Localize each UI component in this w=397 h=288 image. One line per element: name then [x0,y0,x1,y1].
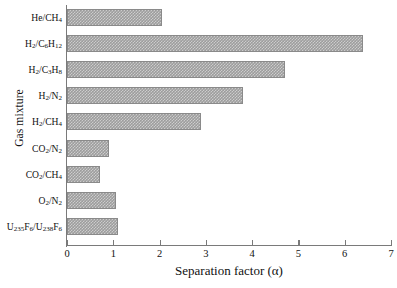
bar-row [67,9,162,26]
separation-factor-bar-chart: Gas mixture Separation factor (α) He/CH4… [0,0,397,288]
bar-He/CH4 [67,9,162,26]
y-tick-label: CO2/N2 [32,143,62,157]
x-tick-label: 7 [379,248,397,259]
x-tick-mark [391,240,392,246]
bar-row [67,113,201,130]
bar-row [67,140,109,157]
y-tick-label: O2/N2 [38,195,62,209]
x-tick-label: 0 [55,248,79,259]
y-tick-label: H2/N2 [38,90,62,104]
x-axis-title: Separation factor (α) [67,263,391,279]
y-tick-label: CO2/CH4 [26,169,62,183]
x-tick-label: 2 [148,248,172,259]
x-tick-mark [160,240,161,246]
bar-H2/N2 [67,87,243,104]
y-tick-label: H2/C3H8 [29,64,62,78]
x-tick-label: 6 [333,248,357,259]
bar-U235F6/U238F6 [67,218,118,235]
bar-CO2/CH4 [67,166,100,183]
bar-row [67,166,100,183]
bar-H2/C6H12 [67,35,363,52]
x-tick-label: 4 [240,248,264,259]
bar-row [67,218,118,235]
bar-H2/CH4 [67,113,201,130]
x-tick-mark [113,240,114,246]
x-axis-line [66,245,391,246]
y-tick-label: H2/C6H12 [25,38,62,52]
bar-row [67,192,116,209]
x-tick-mark [298,240,299,246]
bar-O2/N2 [67,192,116,209]
bar-CO2/N2 [67,140,109,157]
x-tick-mark [67,240,68,246]
y-tick-label: U235F6/U238F6 [7,221,62,235]
y-axis-title: Gas mixture [13,58,25,178]
bar-H2/C3H8 [67,61,285,78]
y-tick-label: He/CH4 [31,12,62,26]
bar-row [67,87,243,104]
x-tick-mark [206,240,207,246]
bar-row [67,35,363,52]
x-tick-label: 3 [194,248,218,259]
x-tick-label: 1 [101,248,125,259]
x-tick-mark [345,240,346,246]
x-tick-mark [252,240,253,246]
y-tick-label: H2/CH4 [32,116,62,130]
x-tick-label: 5 [286,248,310,259]
bar-row [67,61,285,78]
